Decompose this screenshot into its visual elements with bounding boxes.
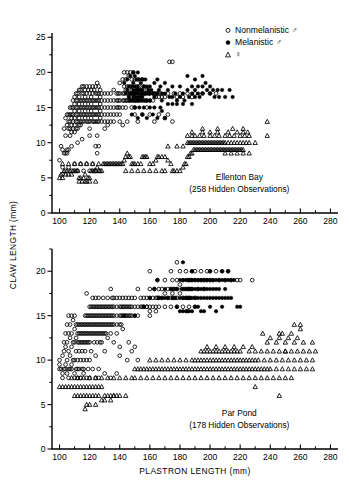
data-point bbox=[193, 88, 197, 92]
data-point bbox=[163, 92, 167, 96]
data-point bbox=[201, 92, 205, 96]
y-axis-title: CLAW LENGTH (mm) bbox=[8, 201, 18, 289]
data-point bbox=[295, 349, 299, 353]
data-point bbox=[307, 349, 311, 353]
data-point bbox=[148, 287, 152, 291]
data-point bbox=[178, 95, 182, 99]
data-point bbox=[95, 134, 99, 138]
data-point bbox=[153, 81, 157, 85]
data-point bbox=[97, 367, 101, 371]
data-point bbox=[66, 161, 70, 165]
data-point bbox=[109, 332, 113, 336]
data-point bbox=[126, 88, 130, 92]
data-point bbox=[64, 363, 68, 367]
data-point bbox=[213, 95, 217, 99]
data-point bbox=[72, 161, 76, 165]
data-point bbox=[136, 116, 140, 120]
data-point bbox=[229, 296, 233, 300]
data-point bbox=[61, 372, 65, 376]
data-point bbox=[132, 71, 136, 75]
data-point bbox=[70, 144, 74, 148]
data-point bbox=[123, 81, 127, 85]
data-point bbox=[298, 322, 302, 326]
data-point bbox=[61, 354, 65, 358]
data-point bbox=[166, 296, 170, 300]
data-point bbox=[178, 85, 182, 89]
y-tick-label: 20 bbox=[36, 67, 46, 77]
data-point bbox=[259, 376, 263, 380]
data-point bbox=[102, 398, 106, 402]
data-point bbox=[202, 309, 206, 313]
x-tick-label: 100 bbox=[52, 216, 67, 226]
data-point bbox=[160, 358, 164, 362]
data-point bbox=[310, 358, 314, 362]
data-point bbox=[247, 349, 251, 353]
data-point bbox=[129, 74, 133, 78]
data-point bbox=[70, 363, 74, 367]
data-point bbox=[292, 358, 296, 362]
data-point bbox=[124, 92, 128, 96]
data-point bbox=[136, 358, 140, 362]
data-point bbox=[286, 358, 290, 362]
data-point bbox=[220, 305, 224, 309]
data-point bbox=[289, 349, 293, 353]
data-point bbox=[115, 332, 119, 336]
x-tick-label: 260 bbox=[293, 216, 308, 226]
y-tick-label: 20 bbox=[36, 266, 46, 276]
data-point bbox=[103, 349, 107, 353]
data-point bbox=[286, 336, 290, 340]
data-point bbox=[181, 144, 185, 148]
data-point bbox=[256, 358, 260, 362]
data-point bbox=[166, 144, 170, 148]
data-point bbox=[217, 95, 221, 99]
data-point bbox=[232, 278, 236, 282]
data-point bbox=[103, 127, 107, 131]
data-point bbox=[208, 85, 212, 89]
data-point bbox=[187, 95, 191, 99]
data-point bbox=[148, 85, 152, 89]
data-point bbox=[153, 95, 157, 99]
data-point bbox=[166, 102, 170, 106]
data-point bbox=[166, 358, 170, 362]
panel-subtitle: (178 Hidden Observations) bbox=[189, 420, 289, 430]
data-point bbox=[181, 305, 185, 309]
data-point bbox=[253, 376, 257, 380]
x-tick-label: 280 bbox=[323, 216, 338, 226]
data-point bbox=[190, 102, 194, 106]
x-tick-label: 180 bbox=[173, 452, 188, 462]
data-point bbox=[112, 340, 116, 344]
data-point bbox=[292, 367, 296, 371]
data-point bbox=[130, 349, 134, 353]
y-tick-label: 0 bbox=[41, 208, 46, 218]
data-point bbox=[144, 78, 148, 82]
data-point bbox=[175, 99, 179, 103]
data-point bbox=[163, 376, 167, 380]
data-point bbox=[201, 85, 205, 89]
data-point bbox=[271, 349, 275, 353]
legend-item-label: Melanistic ♂ bbox=[235, 37, 282, 47]
data-point bbox=[201, 74, 205, 78]
y-tick-label: 10 bbox=[36, 355, 46, 365]
data-point bbox=[250, 344, 254, 348]
data-point bbox=[163, 154, 167, 158]
data-point bbox=[153, 106, 157, 110]
data-point bbox=[62, 349, 66, 353]
data-point bbox=[185, 133, 189, 137]
data-point bbox=[160, 99, 164, 103]
data-point bbox=[87, 402, 91, 406]
data-point bbox=[148, 296, 152, 300]
data-point bbox=[199, 376, 203, 380]
data-point bbox=[88, 127, 92, 131]
data-point bbox=[280, 367, 284, 371]
open-circle-icon bbox=[226, 28, 230, 32]
data-point bbox=[265, 376, 269, 380]
data-point bbox=[148, 99, 152, 103]
x-tick-label: 120 bbox=[82, 452, 97, 462]
data-point bbox=[99, 384, 103, 388]
data-point bbox=[178, 283, 182, 287]
data-point bbox=[76, 141, 80, 145]
data-point bbox=[83, 407, 87, 411]
data-point bbox=[238, 305, 242, 309]
data-point bbox=[157, 88, 161, 92]
data-point bbox=[178, 292, 182, 296]
